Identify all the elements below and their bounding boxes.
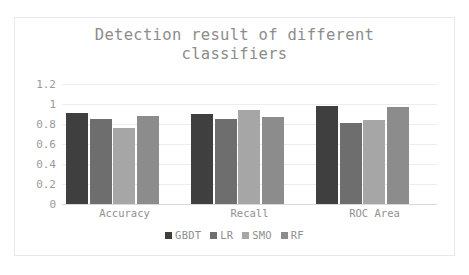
chart-legend: GBDTLRSMORF <box>15 229 454 241</box>
legend-swatch-icon <box>165 232 172 239</box>
y-tick-label: 0.4 <box>36 157 56 170</box>
bar-lr-accuracy <box>90 119 112 204</box>
bar-gbdt-accuracy <box>66 113 88 204</box>
bar-gbdt-recall <box>191 114 213 204</box>
bar-rf-recall <box>262 117 284 205</box>
y-tick-label: 0 <box>49 198 56 211</box>
legend-swatch-icon <box>281 232 288 239</box>
legend-item-gbdt[interactable]: GBDT <box>165 229 201 241</box>
chart-title-line-2: classifiers <box>182 45 288 63</box>
bar-lr-roc-area <box>340 123 362 204</box>
y-tick-label: 1 <box>49 97 56 110</box>
bar-lr-recall <box>215 119 237 205</box>
gridline-0 <box>62 204 437 205</box>
x-axis-category-labels: AccuracyRecallROC Area <box>62 207 437 223</box>
legend-label: LR <box>220 229 233 241</box>
bar-smo-roc-area <box>363 120 385 205</box>
legend-swatch-icon <box>210 232 217 239</box>
bar-rf-accuracy <box>137 116 159 205</box>
chart-figure: Detection result of different classifier… <box>14 17 455 256</box>
legend-item-rf[interactable]: RF <box>281 229 304 241</box>
legend-label: GBDT <box>175 229 201 241</box>
category-label-roc-area: ROC Area <box>312 207 437 219</box>
legend-label: SMO <box>252 229 272 241</box>
legend-item-lr[interactable]: LR <box>210 229 233 241</box>
category-label-recall: Recall <box>187 207 312 219</box>
bar-group <box>62 84 187 204</box>
bar-smo-accuracy <box>113 128 135 205</box>
plot-area: 00.20.40.60.811.2 <box>62 84 437 204</box>
legend-label: RF <box>291 229 304 241</box>
chart-title: Detection result of different classifier… <box>15 26 454 64</box>
bar-rf-roc-area <box>387 107 409 205</box>
y-tick-label: 0.2 <box>36 178 56 191</box>
y-tick-label: 1.2 <box>36 78 56 91</box>
bar-smo-recall <box>238 110 260 204</box>
chart-title-line-1: Detection result of different <box>95 26 374 44</box>
bars-layer <box>62 84 437 204</box>
legend-swatch-icon <box>242 232 249 239</box>
bar-gbdt-roc-area <box>316 106 338 204</box>
bar-group <box>312 84 437 204</box>
legend-item-smo[interactable]: SMO <box>242 229 272 241</box>
category-label-accuracy: Accuracy <box>62 207 187 219</box>
y-tick-label: 0.8 <box>36 117 56 130</box>
y-tick-label: 0.6 <box>36 138 56 151</box>
bar-group <box>187 84 312 204</box>
